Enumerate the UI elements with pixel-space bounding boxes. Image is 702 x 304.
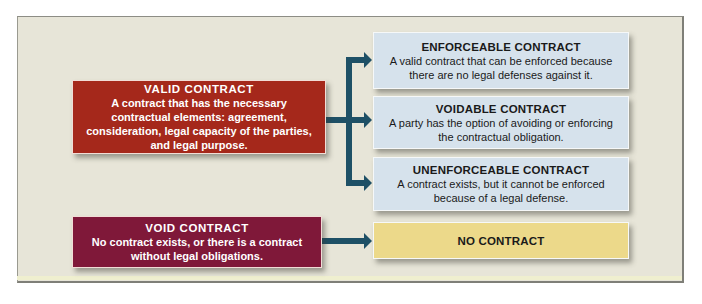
unenforceable-contract-desc: A contract exists, but it cannot be enfo… bbox=[374, 177, 628, 205]
voidable-contract-box: VOIDABLE CONTRACT A party has the option… bbox=[373, 96, 629, 149]
void-contract-title: VOID CONTRACT bbox=[145, 221, 249, 235]
no-contract-box: NO CONTRACT bbox=[373, 222, 629, 259]
enforceable-contract-desc: A valid contract that can be enforced be… bbox=[374, 54, 628, 82]
void-contract-desc: No contract exists, or there is a contra… bbox=[73, 235, 321, 263]
void-contract-box: VOID CONTRACT No contract exists, or the… bbox=[72, 216, 322, 268]
unenforceable-contract-title: UNENFORCEABLE CONTRACT bbox=[413, 163, 589, 177]
no-contract-title: NO CONTRACT bbox=[457, 234, 544, 248]
enforceable-contract-box: ENFORCEABLE CONTRACT A valid contract th… bbox=[373, 32, 629, 89]
valid-contract-box: VALID CONTRACT A contract that has the n… bbox=[72, 80, 326, 154]
unenforceable-contract-box: UNENFORCEABLE CONTRACT A contract exists… bbox=[373, 157, 629, 211]
voidable-contract-desc: A party has the option of avoiding or en… bbox=[374, 116, 628, 144]
valid-contract-desc: A contract that has the necessary contra… bbox=[73, 96, 325, 152]
voidable-contract-title: VOIDABLE CONTRACT bbox=[436, 102, 567, 116]
panel-bottom-stripe bbox=[17, 276, 682, 280]
enforceable-contract-title: ENFORCEABLE CONTRACT bbox=[421, 40, 580, 54]
valid-contract-title: VALID CONTRACT bbox=[144, 82, 254, 96]
